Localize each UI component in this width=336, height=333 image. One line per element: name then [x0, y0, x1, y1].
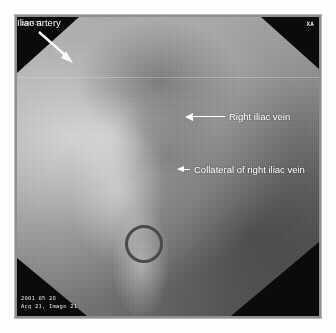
- annotation-label-collateral: Collateral of right iliac vein: [194, 164, 305, 175]
- annotation-collateral-of-right-iliac-vein: Collateral of right iliac vein: [177, 164, 305, 175]
- annotation-label-iliac-artery: Iliac artery: [17, 17, 61, 28]
- arrow-left-icon: [185, 113, 225, 121]
- xray-image: 290431 XA 2001 05 28 Acq 21, Image 21 Ri…: [17, 17, 319, 316]
- arrow-left-short-icon: [177, 166, 190, 174]
- vessel-ring-marker: [125, 225, 163, 263]
- image-frame: 290431 XA 2001 05 28 Acq 21, Image 21 Ri…: [14, 14, 322, 319]
- arrow-diagonal-down-right-icon: [37, 30, 77, 66]
- radiograph-figure: 290431 XA 2001 05 28 Acq 21, Image 21 Ri…: [0, 0, 336, 333]
- annotation-right-iliac-vein: Right iliac vein: [185, 111, 290, 122]
- annotation-label-right-iliac-vein: Right iliac vein: [229, 111, 290, 122]
- acquisition-info-overlay: Acq 21, Image 21: [21, 303, 77, 311]
- study-date-overlay: 2001 05 28: [21, 295, 56, 303]
- view-marker-overlay: XA: [306, 20, 314, 28]
